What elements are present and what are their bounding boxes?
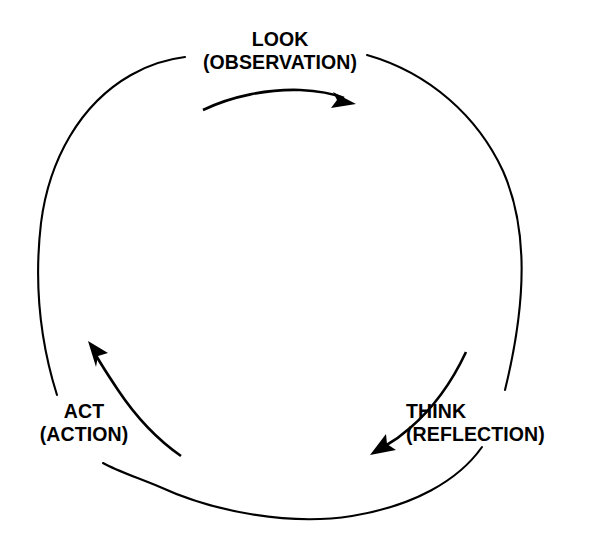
flow-arrow-look-to-think [203,90,356,110]
node-label-think: THINK (REFLECTION) [406,400,586,446]
node-label-think-subtitle: (REFLECTION) [406,423,586,446]
node-label-act: ACT (ACTION) [10,400,158,446]
node-label-look-subtitle: (OBSERVATION) [185,51,375,74]
node-label-think-title: THINK [406,400,586,423]
cycle-diagram-svg [0,0,589,537]
diagram-canvas: LOOK (OBSERVATION) THINK (REFLECTION) AC… [0,0,589,537]
cycle-arc-think-to-act [103,447,482,519]
flow-arrow-act-to-look-head [88,341,108,367]
node-label-look: LOOK (OBSERVATION) [185,28,375,74]
node-label-look-title: LOOK [185,28,375,51]
cycle-arc-act-to-look [38,57,185,395]
node-label-act-title: ACT [10,400,158,423]
flow-arrow-look-to-think-head [331,92,356,108]
flow-arrow-look-to-think-path [203,90,344,110]
flow-arrow-think-to-act-head [370,434,396,455]
cycle-arc-look-to-think [367,55,522,390]
node-label-act-subtitle: (ACTION) [10,423,158,446]
